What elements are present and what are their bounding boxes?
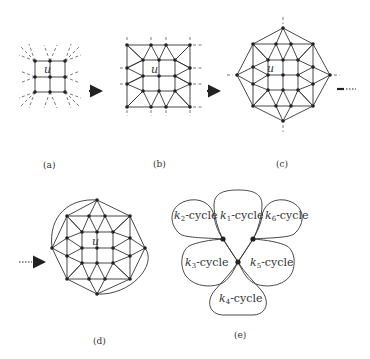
cycle-label-k6: k6-cycle: [265, 209, 308, 223]
caption-b: (b): [153, 159, 166, 169]
cycle-label-k5: k5-cycle: [250, 256, 293, 270]
cycle-label-k4: k4-cycle: [219, 292, 262, 306]
panel-c-graph: u: [227, 17, 340, 132]
panel-d-graph: u: [50, 198, 148, 296]
panel-b-dashed-stubs: [120, 37, 203, 116]
caption-c: (c): [276, 159, 288, 169]
caption-d: (d): [93, 336, 106, 346]
figure-canvas: u: [0, 0, 370, 359]
cycle-label-k3: k3-cycle: [185, 256, 228, 270]
cycle-label-k2: k2-cycle: [174, 209, 217, 223]
panel-c-u-label: u: [267, 62, 274, 75]
panel-e-graph: k2-cycle k1-cycle k6-cycle k3-cycle k5-c…: [172, 190, 308, 315]
panel-b-graph: u: [120, 37, 203, 116]
panel-a-graph: u: [19, 44, 81, 108]
panel-d-u-label: u: [92, 235, 99, 248]
panel-b-u-label: u: [151, 63, 158, 76]
caption-a: (a): [43, 160, 55, 170]
panel-c-nodes: [235, 26, 332, 123]
cycle-label-k1: k1-cycle: [220, 209, 263, 223]
caption-e: (e): [234, 330, 246, 340]
panel-a-u-label: u: [44, 63, 51, 76]
